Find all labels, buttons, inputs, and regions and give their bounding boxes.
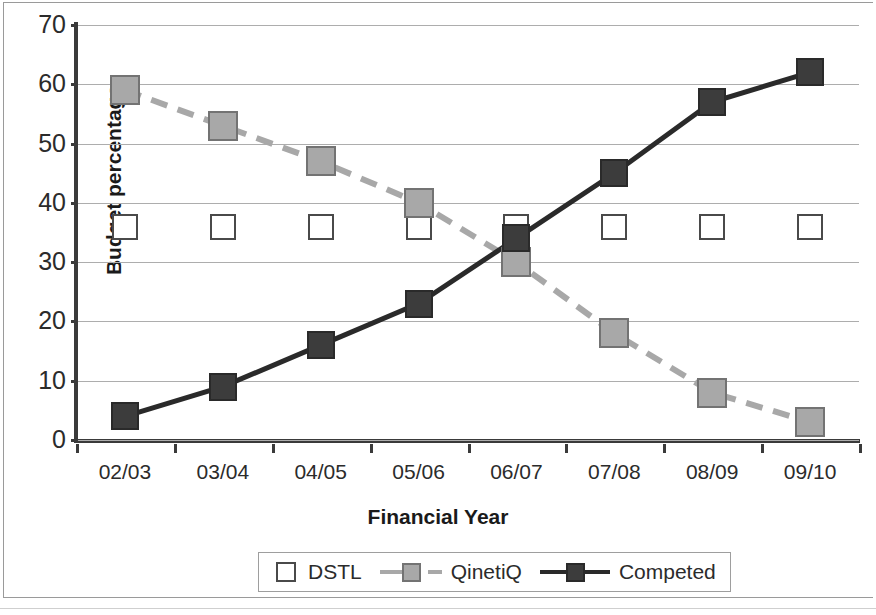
x-tick <box>272 444 275 453</box>
data-point-qinetiq-05-06[interactable] <box>404 188 434 218</box>
data-point-qinetiq-09-10[interactable] <box>795 407 825 437</box>
data-point-competed-07-08[interactable] <box>600 159 628 187</box>
y-tick <box>71 439 78 442</box>
data-point-competed-06-07[interactable] <box>502 224 530 252</box>
legend-key-solid-black-icon <box>540 561 610 583</box>
plot-area <box>76 25 859 440</box>
data-point-qinetiq-04-05[interactable] <box>306 146 336 176</box>
legend-label-2: Competed <box>619 560 716 584</box>
series-lines <box>76 25 859 440</box>
legend-entry-2[interactable]: Competed <box>540 560 716 584</box>
x-tick <box>76 444 79 453</box>
data-point-qinetiq-07-08[interactable] <box>599 318 629 348</box>
data-point-competed-03-04[interactable] <box>209 373 237 401</box>
x-tick <box>663 444 666 453</box>
x-tick-label: 09/10 <box>755 461 865 482</box>
y-tick-label: 40 <box>26 190 66 215</box>
y-tick-label: 0 <box>26 427 66 452</box>
page-divider-rule <box>0 608 876 609</box>
y-tick <box>71 320 78 323</box>
y-tick <box>71 202 78 205</box>
data-point-dstl-02-03[interactable] <box>112 214 138 240</box>
data-point-qinetiq-02-03[interactable] <box>110 75 140 105</box>
data-point-dstl-07-08[interactable] <box>601 214 627 240</box>
x-tick-label: 05/06 <box>364 461 474 482</box>
data-point-competed-08-09[interactable] <box>698 88 726 116</box>
x-tick-label: 03/04 <box>168 461 278 482</box>
legend-key-dashed-gray-icon <box>380 561 442 583</box>
x-tick <box>468 444 471 453</box>
y-tick-label: 50 <box>26 131 66 156</box>
y-tick <box>71 261 78 264</box>
x-tick-label: 02/03 <box>70 461 180 482</box>
y-tick-label: 60 <box>26 71 66 96</box>
gridline <box>76 440 859 441</box>
data-point-qinetiq-03-04[interactable] <box>208 111 238 141</box>
data-point-dstl-09-10[interactable] <box>797 214 823 240</box>
y-tick-label: 70 <box>26 12 66 37</box>
x-tick-label: 08/09 <box>657 461 767 482</box>
y-tick <box>71 380 78 383</box>
data-point-dstl-03-04[interactable] <box>210 214 236 240</box>
legend-label-1: QinetiQ <box>451 560 522 584</box>
data-point-competed-09-10[interactable] <box>796 58 824 86</box>
y-tick <box>71 143 78 146</box>
legend-label-0: DSTL <box>308 560 362 584</box>
chart-legend: DSTL QinetiQ Competed <box>258 552 731 592</box>
legend-entry-1[interactable]: QinetiQ <box>380 560 522 584</box>
x-tick <box>370 444 373 453</box>
data-point-competed-04-05[interactable] <box>307 331 335 359</box>
data-point-competed-02-03[interactable] <box>111 402 139 430</box>
x-tick <box>761 444 764 453</box>
data-point-competed-05-06[interactable] <box>405 290 433 318</box>
x-tick <box>859 444 862 453</box>
y-tick-label: 10 <box>26 368 66 393</box>
legend-key-square-hollow-icon <box>273 561 299 583</box>
y-tick-label: 20 <box>26 308 66 333</box>
y-axis-tick-labels: 010203040506070 <box>12 0 66 470</box>
x-tick-label: 04/05 <box>266 461 376 482</box>
y-tick <box>71 24 78 27</box>
chart-page: Budget percentage Financial Year 0102030… <box>0 0 876 615</box>
y-tick-label: 30 <box>26 249 66 274</box>
legend-entry-0[interactable]: DSTL <box>273 560 362 584</box>
x-tick <box>174 444 177 453</box>
x-tick <box>565 444 568 453</box>
x-tick-label: 06/07 <box>461 461 571 482</box>
y-tick <box>71 83 78 86</box>
x-tick-label: 07/08 <box>559 461 669 482</box>
data-point-dstl-04-05[interactable] <box>308 214 334 240</box>
x-axis-title: Financial Year <box>0 505 876 529</box>
data-point-qinetiq-08-09[interactable] <box>697 378 727 408</box>
data-point-dstl-08-09[interactable] <box>699 214 725 240</box>
